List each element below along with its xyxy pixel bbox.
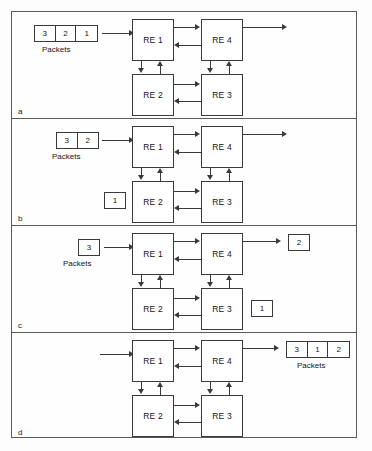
node-re2: RE 2 [132,288,174,330]
link-re2-re1-arrowhead [157,168,163,173]
node-re3: RE 3 [201,395,243,437]
link-re2-re3-arrowhead [195,81,200,87]
packet-cell: 1 [308,342,329,357]
link-re3-re2 [179,208,201,209]
link-re1-re4 [174,27,196,28]
panel-d: RE 1 RE 4 RE 2 RE 3 3 1 2 Packets [12,333,356,439]
link-re3-re4 [229,387,230,395]
link-re1-re2-arrowhead [138,68,144,73]
link-re4-re1-arrowhead [174,256,179,262]
panel-d-output-packets: 3 1 2 [286,341,350,358]
packet-cell: 3 [57,133,78,148]
panel-b: 3 2 Packets RE 1 RE 4 RE 2 RE 3 [12,119,356,226]
link-re3-re2-arrowhead [174,98,179,104]
node-re3: RE 3 [201,74,243,116]
link-re4-re1 [179,45,201,46]
link-re2-re3 [174,191,196,192]
packet-cell: 3 [287,342,308,357]
packet-cell: 2 [78,133,98,148]
panel-a-label: a [18,107,22,116]
link-re3-re2-arrowhead [174,419,179,425]
link-re3-re2-arrowhead [174,205,179,211]
node-re1: RE 1 [132,340,174,382]
panel-a-input-link [102,33,130,34]
panel-d-label: d [18,428,22,437]
link-re3-re4 [229,173,230,181]
link-re1-re4 [174,241,196,242]
link-re2-re1-arrowhead [157,382,163,387]
panel-a: 3 2 1 Packets RE 1 RE 4 RE 2 RE 3 [12,12,356,119]
node-re2: RE 2 [132,181,174,223]
link-re2-re1 [160,387,161,395]
link-re4-re1-arrowhead [174,149,179,155]
link-re3-re4-arrowhead [226,275,232,280]
link-re4-re3-arrowhead [207,389,213,394]
panel-a-output-arrowhead [282,24,287,30]
node-re4: RE 4 [201,19,243,61]
link-re1-re4-arrowhead [195,24,200,30]
node-re1: RE 1 [132,233,174,275]
link-re1-re4-arrowhead [195,131,200,137]
link-re1-re4 [174,348,196,349]
node-re2: RE 2 [132,74,174,116]
link-re4-re3-arrowhead [207,175,213,180]
panel-c-output-arrowhead [276,238,281,244]
link-re2-re3 [174,298,196,299]
packet-cell: 2 [289,235,309,250]
panel-d-packets-caption: Packets [297,361,325,370]
link-re4-re3-arrowhead [207,68,213,73]
link-re2-re3-arrowhead [195,188,200,194]
link-re4-re1-arrowhead [174,42,179,48]
panel-c-input-link [104,247,130,248]
link-re3-re4-arrowhead [226,61,232,66]
panel-c-output-link [243,241,277,242]
link-re2-re3 [174,405,196,406]
node-re4: RE 4 [201,126,243,168]
link-re3-re4-arrowhead [226,382,232,387]
node-re4: RE 4 [201,340,243,382]
link-re2-re1 [160,280,161,288]
link-re4-re1 [179,366,201,367]
packet-cell: 1 [76,26,97,41]
link-re2-re1 [160,173,161,181]
panel-a-output-link [243,27,283,28]
link-re1-re4 [174,134,196,135]
figure-outer-frame: 3 2 1 Packets RE 1 RE 4 RE 2 RE 3 [11,11,357,438]
node-re1: RE 1 [132,19,174,61]
packet-cell: 3 [79,240,99,255]
link-re3-re4 [229,280,230,288]
link-re1-re4-arrowhead [195,345,200,351]
link-re3-re4-arrowhead [226,168,232,173]
link-re3-re4 [229,66,230,74]
link-re2-re3-arrowhead [195,295,200,301]
panel-c-label: c [18,321,22,330]
node-re4: RE 4 [201,233,243,275]
link-re4-re3-arrowhead [207,282,213,287]
panel-d-output-link [243,348,275,349]
packet-cell: 2 [56,26,77,41]
figure-root: 3 2 1 Packets RE 1 RE 4 RE 2 RE 3 [0,0,372,451]
link-re4-re1 [179,259,201,260]
panel-c-input-packets: 3 [78,239,100,256]
link-re1-re2-arrowhead [138,389,144,394]
link-re4-re1-arrowhead [174,363,179,369]
panel-b-packets-caption: Packets [52,152,80,161]
link-re1-re2-arrowhead [138,282,144,287]
link-re4-re1 [179,152,201,153]
panel-b-label: b [18,214,22,223]
link-re3-re2 [179,422,201,423]
link-re3-re2-arrowhead [174,312,179,318]
link-re2-re3-arrowhead [195,402,200,408]
link-re2-re1-arrowhead [157,275,163,280]
node-re2: RE 2 [132,395,174,437]
panel-c-packets-caption: Packets [63,259,91,268]
panel-c: 3 Packets RE 1 RE 4 RE 2 RE 3 2 [12,226,356,333]
link-re2-re3 [174,84,196,85]
packet-cell: 2 [328,342,349,357]
packet-cell: 1 [105,193,125,208]
node-re3: RE 3 [201,181,243,223]
link-re1-re4-arrowhead [195,238,200,244]
panel-b-input-link [102,140,130,141]
packet-cell: 3 [35,26,56,41]
link-re2-re1-arrowhead [157,61,163,66]
